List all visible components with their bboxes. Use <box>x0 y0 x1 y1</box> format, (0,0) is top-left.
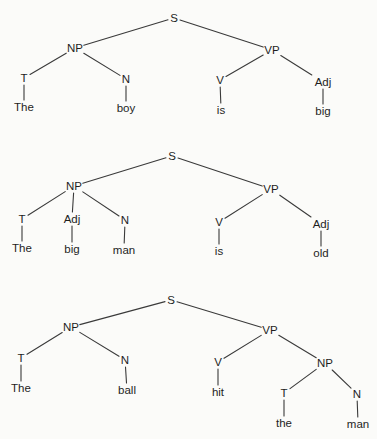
node-n: N <box>353 388 361 400</box>
node-n: N <box>121 354 129 366</box>
node-adj: Adj <box>64 213 81 225</box>
node-s: S <box>168 150 176 162</box>
parse-tree-2: SNPVPTAdjNVAdjThebigmanisold <box>12 150 329 259</box>
word-boy: boy <box>117 102 136 114</box>
tree-edge-np-n <box>84 53 120 75</box>
node-np: NP <box>317 357 333 369</box>
tree-edge-s-np <box>80 302 165 325</box>
tree-edge-np-t <box>28 192 65 216</box>
node-adj: Adj <box>313 218 330 230</box>
node-n: N <box>122 73 130 85</box>
tree-edge-np-n <box>80 332 119 356</box>
tree-edge-n-w3 <box>124 227 125 243</box>
word-old: old <box>313 247 328 259</box>
tree-edge-n2-w5 <box>357 401 358 417</box>
tree-edge-s-vp <box>177 302 261 328</box>
node-np: NP <box>67 42 83 54</box>
tree-edge-vp-v <box>225 195 262 219</box>
tree-edge-s-np <box>83 158 166 184</box>
word-ball: ball <box>118 384 136 396</box>
word-big: big <box>315 105 330 117</box>
tree-edge-np2-t2 <box>290 369 316 388</box>
node-s: S <box>170 12 178 24</box>
parse-trees-svg: SNPVPTNVAdjTheboyisbig SNPVPTAdjNVAdjThe… <box>0 0 377 439</box>
word-the: The <box>14 101 34 113</box>
syntax-tree-diagram: SNPVPTNVAdjTheboyisbig SNPVPTAdjNVAdjThe… <box>0 0 377 439</box>
node-np: NP <box>66 180 82 192</box>
tree-edge-s-vp <box>178 158 262 186</box>
tree-edge-vp-np2 <box>279 335 316 357</box>
tree-edge-np-t <box>30 53 66 74</box>
node-s: S <box>167 294 175 306</box>
tree-edge-np-t <box>27 333 62 355</box>
tree-edge-s-np <box>84 20 168 46</box>
node-vp: VP <box>264 44 280 56</box>
node-v: V <box>216 74 224 86</box>
tree-edge-np-adj1 <box>72 193 73 212</box>
word-man: man <box>347 418 369 430</box>
tree-edge-vp-adj <box>281 56 312 76</box>
tree-edge-s-vp <box>180 20 263 47</box>
node-t: T <box>18 213 25 225</box>
tree-edge-vp-adj2 <box>280 195 311 217</box>
parse-tree-1: SNPVPTNVAdjTheboyisbig <box>14 12 331 117</box>
node-n: N <box>121 214 129 226</box>
word-man: man <box>113 244 135 256</box>
node-t: T <box>20 72 27 84</box>
word-big: big <box>64 243 79 255</box>
word-is: is <box>215 245 224 257</box>
word-is: is <box>217 104 226 116</box>
parse-tree-3: SNPVPTNVNPTNTheballhittheman <box>11 294 369 430</box>
node-t: T <box>280 387 287 399</box>
tree-edge-np-n <box>83 192 119 216</box>
node-vp: VP <box>262 324 278 336</box>
node-adj: Adj <box>315 76 332 88</box>
node-vp: VP <box>263 183 279 195</box>
word-the: The <box>12 242 32 254</box>
node-t: T <box>17 352 24 364</box>
tree-edge-n-w2 <box>126 367 127 383</box>
word-the: The <box>11 382 31 394</box>
tree-edge-vp-v <box>226 55 263 76</box>
tree-edge-np2-n2 <box>332 370 351 388</box>
node-np: NP <box>63 321 79 333</box>
tree-edge-v-w3 <box>220 87 221 103</box>
word-the: the <box>276 417 292 429</box>
node-v: V <box>215 216 223 228</box>
word-hit: hit <box>212 386 225 398</box>
tree-edge-vp-v <box>224 335 261 358</box>
node-v: V <box>214 356 222 368</box>
